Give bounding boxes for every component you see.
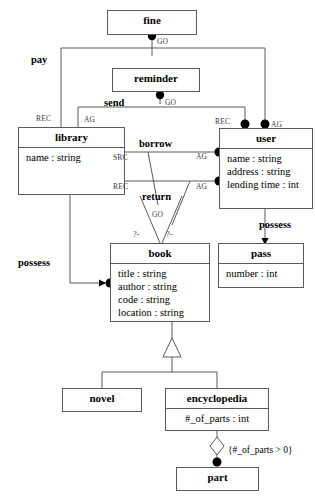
multiplicity-return-right: ?- bbox=[166, 230, 173, 239]
class-attributes-encyclopedia: #_of_parts : int bbox=[166, 409, 268, 428]
association-label-return: return bbox=[142, 192, 171, 203]
multiplicity-return-left: ?- bbox=[133, 230, 140, 239]
association-label-possess-right: possess bbox=[259, 220, 291, 231]
role-label-borrow-ag: AG bbox=[196, 153, 207, 161]
role-label-return-rec: REC bbox=[113, 183, 128, 191]
role-label-return-go: GO bbox=[152, 211, 163, 219]
attribute-row: location : string bbox=[118, 306, 209, 319]
constraint-label: {#_of_parts > 0} bbox=[228, 446, 293, 456]
class-attributes-library: name : string bbox=[19, 148, 124, 167]
association-label-pay: pay bbox=[31, 55, 47, 66]
role-label-borrow-src: SRC bbox=[113, 154, 128, 162]
class-name-part: part bbox=[177, 468, 258, 487]
line-return-leg-right bbox=[172, 181, 190, 225]
class-box-book[interactable]: book title : string author : string code… bbox=[110, 243, 210, 322]
class-box-novel[interactable]: novel bbox=[62, 388, 142, 412]
role-label-pay-ag: AG bbox=[271, 121, 282, 129]
uml-class-diagram: fine reminder library name : string user… bbox=[0, 0, 315, 501]
attribute-row: name : string bbox=[26, 151, 124, 164]
generalization-triangle bbox=[163, 338, 181, 357]
class-attributes-user: name : string address : string lending t… bbox=[220, 149, 312, 194]
attribute-row: title : string bbox=[118, 267, 209, 280]
attribute-row: lending time : int bbox=[227, 178, 312, 191]
class-name-reminder: reminder bbox=[113, 69, 199, 88]
association-label-possess-left: possess bbox=[18, 258, 50, 269]
role-label-fine-go: GO bbox=[157, 38, 168, 46]
attribute-row: author : string bbox=[118, 280, 209, 293]
role-label-send-ag: AG bbox=[84, 116, 95, 124]
class-attributes-pass: number : int bbox=[219, 264, 303, 283]
class-box-fine[interactable]: fine bbox=[107, 10, 197, 35]
role-label-return-ag: AG bbox=[196, 183, 207, 191]
class-box-reminder[interactable]: reminder bbox=[112, 68, 200, 92]
class-name-novel: novel bbox=[63, 389, 141, 408]
class-box-encyclopedia[interactable]: encyclopedia #_of_parts : int bbox=[165, 388, 269, 431]
dot-part-aggregation bbox=[213, 458, 222, 467]
class-box-pass[interactable]: pass number : int bbox=[218, 243, 304, 288]
attribute-row: number : int bbox=[226, 267, 303, 280]
class-name-encyclopedia: encyclopedia bbox=[166, 389, 268, 408]
aggregation-diamond bbox=[210, 437, 224, 455]
role-label-send-rec: REC bbox=[215, 118, 230, 126]
class-name-fine: fine bbox=[108, 11, 196, 30]
role-label-reminder-go: GO bbox=[165, 99, 176, 107]
class-name-user: user bbox=[220, 129, 312, 148]
class-name-library: library bbox=[19, 128, 124, 147]
association-label-send: send bbox=[104, 98, 124, 109]
attribute-row: address : string bbox=[227, 165, 312, 178]
class-name-pass: pass bbox=[219, 244, 303, 263]
class-name-book: book bbox=[111, 244, 209, 263]
arrowhead-possess-left bbox=[99, 280, 106, 287]
attribute-row: code : string bbox=[118, 293, 209, 306]
association-label-borrow: borrow bbox=[139, 139, 172, 150]
attribute-row: #_of_parts : int bbox=[166, 412, 268, 425]
class-box-part[interactable]: part bbox=[176, 467, 259, 491]
class-attributes-book: title : string author : string code : st… bbox=[111, 264, 209, 322]
class-box-user[interactable]: user name : string address : string lend… bbox=[219, 128, 313, 209]
dot-reminder-go bbox=[156, 91, 164, 99]
line-return-v-left bbox=[140, 196, 160, 243]
class-box-library[interactable]: library name : string bbox=[18, 127, 125, 195]
role-label-pay-rec: REC bbox=[36, 115, 51, 123]
attribute-row: name : string bbox=[227, 152, 312, 165]
